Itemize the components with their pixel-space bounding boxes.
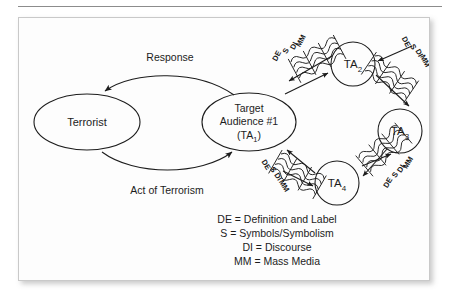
legend-item-di: DI = Discourse [242, 241, 311, 253]
bundle-ta2-ta3-label-mm: MM [418, 53, 429, 68]
flow-act-of-terrorism[interactable]: Act of Terrorism [102, 152, 232, 196]
node-ta3[interactable]: TA3 [378, 109, 422, 153]
diagram-canvas: Terrorist Target Audience #1 (TA1) TA2 [19, 18, 429, 280]
terrorist-label: Terrorist [67, 116, 107, 128]
ta1-suffix: ) [257, 129, 261, 141]
legend-item-mm: MM = Mass Media [234, 255, 320, 267]
legend-item-s: S = Symbols/Symbolism [220, 227, 334, 239]
node-terrorist[interactable]: Terrorist [34, 94, 140, 150]
bundle-ta4-ta3-label-de: DE [381, 176, 394, 190]
legend-item-de: DE = Definition and Label [217, 213, 336, 225]
response-arrow-path [105, 76, 234, 95]
ta2-subscript: 2 [358, 65, 363, 74]
ta1-prefix: (TA [237, 129, 253, 141]
act-of-terrorism-arrow-path [102, 152, 232, 170]
target-audience-line2: Audience #1 [220, 115, 279, 127]
ta4-prefix: TA [328, 177, 342, 189]
flow-response[interactable]: Response [105, 51, 234, 95]
ta2-label: TA2 [344, 58, 363, 74]
response-label: Response [146, 51, 193, 63]
figure-panel: Terrorist Target Audience #1 (TA1) TA2 [18, 17, 430, 281]
bundle-ta1-ta4-label-mm: MM [277, 178, 291, 194]
legend: DE = Definition and Label S = Symbols/Sy… [217, 213, 336, 267]
channel-bundle-ta2-ta3[interactable]: DE S DI MM [361, 35, 429, 106]
ta4-subscript: 4 [342, 184, 347, 193]
ta2-prefix: TA [344, 58, 358, 70]
top-rule-divider [18, 6, 442, 7]
target-audience-line3: (TA1) [237, 129, 261, 144]
channel-bundle-ta1-ta2[interactable]: MM DI S DE [270, 33, 346, 94]
figure-root: Terrorist Target Audience #1 (TA1) TA2 [0, 0, 453, 296]
ta4-label: TA4 [328, 177, 347, 193]
ta1-to-ta2-arrow [285, 73, 328, 94]
act-of-terrorism-label: Act of Terrorism [130, 184, 204, 196]
node-target-audience-1[interactable]: Target Audience #1 (TA1) [202, 93, 296, 151]
target-audience-line1: Target [234, 102, 263, 114]
